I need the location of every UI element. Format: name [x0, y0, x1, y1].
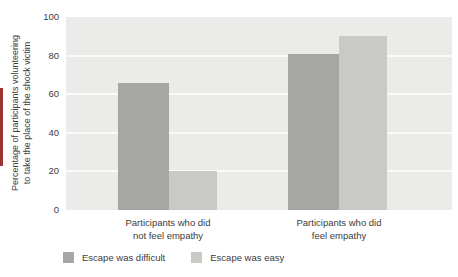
- plot-area: [66, 17, 452, 210]
- x-category-line: Participants who did: [125, 217, 210, 230]
- legend-item-difficult: Escape was difficult: [63, 252, 165, 263]
- legend-swatch-difficult: [63, 252, 74, 263]
- y-tick-label-0: 0: [54, 205, 59, 215]
- legend-label-difficult: Escape was difficult: [82, 252, 165, 263]
- y-tick-label-40: 40: [48, 128, 59, 138]
- x-category-line: Participants who did: [296, 217, 381, 230]
- x-category-label-no-empathy: Participants who did not feel empathy: [125, 217, 210, 242]
- y-tick-label-20: 20: [48, 166, 59, 176]
- legend: Escape was difficult Escape was easy: [63, 252, 284, 263]
- legend-swatch-easy: [191, 252, 202, 263]
- x-category-line: not feel empathy: [125, 230, 210, 243]
- y-axis-ticks: 020406080100: [0, 0, 59, 220]
- x-category-label-empathy: Participants who did feel empathy: [296, 217, 381, 242]
- legend-item-easy: Escape was easy: [191, 252, 284, 263]
- bar-easy-group2: [339, 36, 387, 210]
- y-tick-label-80: 80: [48, 51, 59, 61]
- y-tick-label-100: 100: [43, 12, 59, 22]
- legend-label-easy: Escape was easy: [210, 252, 284, 263]
- bar-chart-figure: Percentage of participants volunteering …: [0, 0, 458, 277]
- y-tick-label-60: 60: [48, 89, 59, 99]
- bar-easy-group1: [169, 171, 217, 210]
- x-category-line: feel empathy: [296, 230, 381, 243]
- bar-difficult-group1: [118, 83, 169, 210]
- gridline-80: [66, 55, 452, 57]
- bar-difficult-group2: [288, 54, 339, 210]
